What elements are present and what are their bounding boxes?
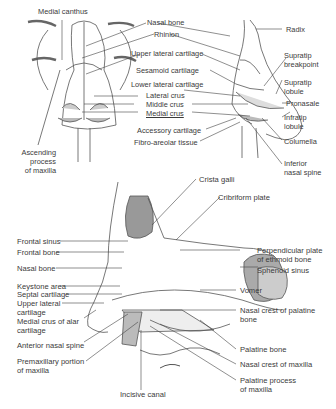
- label-ascending-process-line1: Ascending: [0, 148, 56, 157]
- label-upper-lateral-cartilage: Upper lateral cartilage: [131, 49, 203, 58]
- label-palatine-process-line2: of maxilla: [240, 385, 272, 394]
- label-nasal-bone: Nasal bone: [147, 18, 184, 27]
- label-fibro-areolar-tissue: Fibro-areolar tissue: [134, 138, 198, 147]
- label-perpendicular-plate-line2: of ethmoid bone: [257, 255, 311, 264]
- label-infratip-lobule-line2: lobule: [284, 122, 304, 131]
- label-inferior-nasal-spine-line2: nasal spine: [284, 168, 321, 177]
- frontal-nose-drawing: [28, 21, 136, 162]
- label-nasal-crest-palatine-line1: Nasal crest of palatine: [240, 306, 315, 315]
- label-frontal-bone: Frontal bone: [17, 248, 60, 257]
- label-pronasale: Pronasale: [286, 99, 319, 108]
- label-palatine-bone: Palatine bone: [240, 345, 286, 354]
- label-supratip-lobule-line2: lobule: [284, 87, 304, 96]
- label-nasal-crest-maxilla: Nasal crest of maxilla: [240, 360, 312, 369]
- label-inferior-nasal-spine-line1: Inferior: [284, 159, 307, 168]
- label-septal-cartilage: Septal cartilage: [17, 290, 69, 299]
- label-radix: Radix: [286, 25, 305, 34]
- label-medial-crus-alar-line1: Medial crus of alar: [17, 317, 79, 326]
- label-premaxillary-line2: of maxilla: [17, 366, 49, 375]
- label-lateral-crus: Lateral crus: [146, 91, 185, 100]
- label-upper-lateral-cartilage-section-line2: cartilage: [17, 308, 46, 317]
- label-rhinion: Rhinion: [154, 30, 179, 39]
- label-crista-galli: Crista galli: [199, 175, 234, 184]
- label-nasal-bone-section: Nasal bone: [17, 264, 55, 273]
- label-ascending-process-line3: of maxilla: [0, 166, 56, 175]
- label-premaxillary-line1: Premaxillary portion: [17, 357, 84, 366]
- label-frontal-sinus: Frontal sinus: [17, 237, 60, 246]
- label-medial-canthus: Medial canthus: [38, 7, 88, 16]
- label-middle-crus: Middle crus: [146, 100, 184, 109]
- label-lower-lateral-cartilage: Lower lateral cartilage: [131, 80, 203, 89]
- label-anterior-nasal-spine: Anterior nasal spine: [17, 341, 84, 350]
- label-palatine-process-line1: Palatine process: [240, 376, 296, 385]
- label-medial-crus: Medial crus: [146, 109, 184, 118]
- label-supratip-breakpoint-line2: breakpoint: [284, 60, 319, 69]
- label-vomer: Vomer: [240, 286, 262, 295]
- label-medial-crus-alar-line2: cartilage: [17, 326, 46, 335]
- label-accessory-cartilage: Accessory cartilage: [137, 126, 201, 135]
- label-columella: Columella: [284, 137, 317, 146]
- label-nasal-crest-palatine-line2: bone: [240, 315, 257, 324]
- label-cribriform-plate: Cribriform plate: [218, 193, 270, 202]
- sagittal-section-drawing: [88, 182, 288, 368]
- label-sesamoid-cartilage: Sesamoid cartilage: [136, 66, 199, 75]
- label-ascending-process-line2: process: [0, 157, 56, 166]
- leader-lines: [56, 20, 290, 390]
- label-supratip-breakpoint-line1: Supratip: [284, 51, 312, 60]
- label-infratip-lobule-line1: Infratip: [284, 113, 307, 122]
- label-upper-lateral-cartilage-section-line1: Upper lateral: [17, 299, 60, 308]
- label-perpendicular-plate-line1: Perpendicular plate: [257, 246, 322, 255]
- label-supratip-lobule-line1: Supratip: [284, 78, 312, 87]
- label-sphenoid-sinus: Sphenoid sinus: [257, 266, 309, 275]
- label-incisive-canal: Incisive canal: [120, 390, 166, 399]
